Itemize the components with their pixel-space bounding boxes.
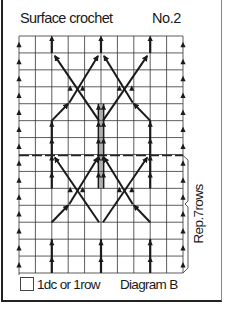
repeat-label: Rep.7rows <box>191 184 206 243</box>
diagram-label: Diagram B <box>120 277 177 292</box>
crochet-chart <box>0 0 225 313</box>
legend-text: 1dc or 1row <box>37 277 100 292</box>
legend-square-icon <box>20 277 34 291</box>
